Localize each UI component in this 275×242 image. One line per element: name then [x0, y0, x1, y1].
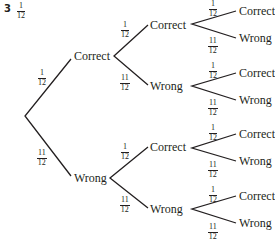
node-l3-4: Correct: [239, 127, 275, 141]
prob-l3-4: 112: [209, 124, 217, 142]
node-l2-wrong-wrong: Wrong: [150, 202, 183, 216]
node-l3-6: Correct: [239, 189, 275, 203]
node-l1-correct: Correct: [74, 49, 110, 63]
tree-diagram: 3 112 Correct Wrong 112 1112 Correct Wro…: [0, 0, 275, 242]
prob-l3-1: 1112: [208, 37, 218, 55]
node-l3-5: Wrong: [239, 154, 272, 168]
prob-l2-0: 112: [121, 21, 129, 39]
prob-l1-correct: 112: [38, 69, 46, 87]
branch-lines: [0, 0, 275, 242]
node-l2-correct-wrong: Wrong: [150, 79, 183, 93]
node-l3-7: Wrong: [239, 216, 272, 230]
node-l1-wrong: Wrong: [74, 171, 107, 185]
node-l3-1: Wrong: [239, 31, 272, 45]
prob-l1-wrong: 1112: [37, 149, 47, 167]
prob-l3-2: 112: [209, 62, 217, 80]
node-l3-2: Correct: [239, 66, 275, 80]
answer-fraction: 112: [17, 2, 25, 20]
prob-l3-6: 112: [209, 186, 217, 204]
prob-l2-3: 1112: [120, 196, 130, 214]
prob-l3-0: 112: [209, 0, 217, 18]
node-l2-wrong-correct: Correct: [150, 140, 186, 154]
question-number: 3: [4, 3, 11, 14]
node-l2-correct-correct: Correct: [150, 18, 186, 32]
prob-l2-2: 112: [121, 143, 129, 161]
prob-l3-7: 1112: [208, 223, 218, 241]
node-l3-3: Wrong: [239, 93, 272, 107]
prob-l3-3: 1112: [208, 99, 218, 117]
node-l3-0: Correct: [239, 4, 275, 18]
prob-l3-5: 1112: [208, 161, 218, 179]
prob-l2-1: 1112: [120, 74, 130, 92]
